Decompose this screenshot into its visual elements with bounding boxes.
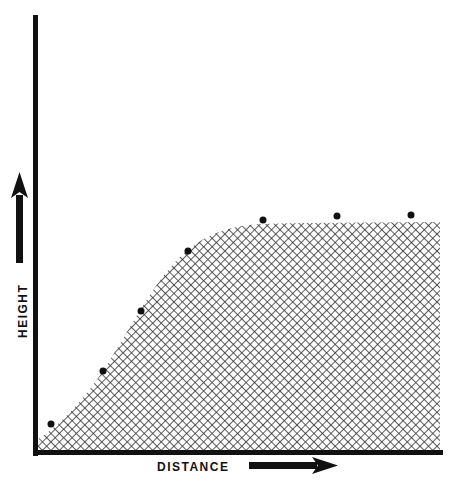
x-axis-label: DISTANCE <box>157 460 229 474</box>
y-axis-label: HEIGHT <box>16 284 30 338</box>
data-point <box>185 248 192 255</box>
data-point <box>100 368 107 375</box>
data-point <box>138 308 145 315</box>
x-axis <box>33 450 443 455</box>
data-point <box>48 421 55 428</box>
right-arrow-icon <box>249 457 338 474</box>
data-point <box>408 212 415 219</box>
y-axis <box>33 15 38 456</box>
hatched-area <box>37 222 440 450</box>
sigmoid-area-diagram: HEIGHT DISTANCE <box>0 0 453 484</box>
data-point <box>260 217 267 224</box>
up-arrow-icon <box>11 172 28 263</box>
data-point <box>334 213 341 220</box>
